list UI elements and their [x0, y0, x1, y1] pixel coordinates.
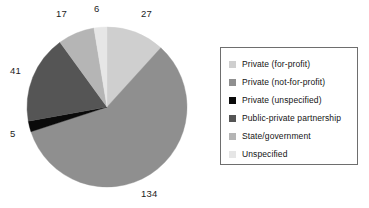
- legend-swatch-icon: [229, 97, 236, 104]
- legend-swatch-icon: [229, 151, 236, 158]
- pie-svg: [0, 0, 215, 208]
- pie-plot-area: 27 134 5 41 17 6: [0, 0, 215, 208]
- legend-item-label: Private (for-profit): [242, 59, 310, 69]
- pie-chart-figure: 27 134 5 41 17 6 Private (for-profit) Pr…: [0, 0, 369, 208]
- pie-label-state-government: 17: [56, 8, 67, 19]
- pie-label-private-unspecified: 5: [10, 128, 15, 139]
- chart-legend: Private (for-profit) Private (not-for-pr…: [220, 47, 358, 165]
- legend-swatch-icon: [229, 133, 236, 140]
- legend-item-private-unspecified[interactable]: Private (unspecified): [229, 91, 357, 109]
- pie-slice-group: [27, 27, 187, 187]
- legend-item-state-government[interactable]: State/government: [229, 127, 357, 145]
- legend-swatch-icon: [229, 61, 236, 68]
- legend-item-label: Private (not-for-profit): [242, 77, 325, 87]
- legend-swatch-icon: [229, 115, 236, 122]
- legend-item-private-not-for-profit[interactable]: Private (not-for-profit): [229, 73, 357, 91]
- legend-item-label: Unspecified: [242, 149, 288, 159]
- legend-item-public-private-partnership[interactable]: Public-private partnership: [229, 109, 357, 127]
- pie-label-private-not-for-profit: 134: [141, 188, 157, 199]
- legend-item-label: Public-private partnership: [242, 113, 341, 123]
- pie-label-public-private-partnership: 41: [10, 65, 21, 76]
- legend-item-label: Private (unspecified): [242, 95, 322, 105]
- pie-label-unspecified: 6: [94, 3, 99, 14]
- legend-item-private-for-profit[interactable]: Private (for-profit): [229, 55, 357, 73]
- pie-label-private-for-profit: 27: [141, 8, 152, 19]
- legend-item-label: State/government: [242, 131, 311, 141]
- legend-swatch-icon: [229, 79, 236, 86]
- legend-item-unspecified[interactable]: Unspecified: [229, 145, 357, 163]
